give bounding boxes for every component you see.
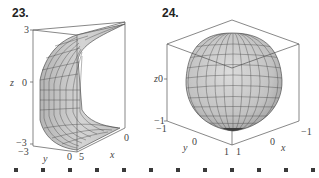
bullet-marker bbox=[95, 168, 99, 172]
z-tick-0: 0 bbox=[158, 74, 163, 84]
sphere-surface-plot bbox=[160, 0, 319, 165]
x-tick-neg1: −1 bbox=[301, 127, 312, 137]
bullet-marker bbox=[122, 168, 126, 172]
y-tick-0: 0 bbox=[67, 152, 72, 162]
z-tick-0: 0 bbox=[22, 78, 27, 88]
x-axis-label: x bbox=[281, 143, 285, 153]
x-tick-1: 1 bbox=[236, 147, 241, 157]
figure-23: 23. bbox=[0, 0, 160, 165]
bullet-marker bbox=[311, 168, 315, 172]
x-axis-label: x bbox=[110, 150, 114, 160]
y-tick-neg3: −3 bbox=[18, 147, 29, 157]
bullet-marker bbox=[68, 168, 72, 172]
z-tick-3: 3 bbox=[24, 25, 29, 35]
x-tick-0: 0 bbox=[124, 133, 129, 143]
bullet-marker bbox=[176, 168, 180, 172]
x-tick-0: 0 bbox=[270, 137, 275, 147]
bullet-marker bbox=[203, 168, 207, 172]
bullet-marker bbox=[41, 168, 45, 172]
bullet-marker bbox=[149, 168, 153, 172]
y-axis-label: y bbox=[183, 143, 187, 153]
y-tick-0: 0 bbox=[192, 137, 197, 147]
bullet-marker bbox=[257, 168, 261, 172]
z-axis-label: z bbox=[10, 78, 14, 88]
bullet-marker bbox=[284, 168, 288, 172]
x-tick-5: 5 bbox=[79, 152, 84, 162]
y-tick-neg1: −1 bbox=[156, 124, 167, 134]
bullet-separator-row bbox=[0, 168, 319, 174]
y-tick-1: 1 bbox=[224, 147, 229, 157]
y-axis-label: y bbox=[43, 154, 47, 164]
bullet-marker bbox=[14, 168, 18, 172]
bullet-marker bbox=[230, 168, 234, 172]
figure-24: 24. bbox=[160, 0, 319, 165]
